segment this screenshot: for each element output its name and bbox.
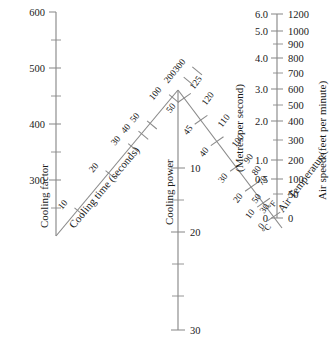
tick-major <box>211 137 224 146</box>
air-temp-c-tick-45: 45 <box>181 123 195 137</box>
air-speed-fpm-tick-800: 800 <box>288 53 304 64</box>
cooling-time-tick-100: 100 <box>147 85 164 102</box>
cooling-time-tick-30: 30 <box>109 134 123 148</box>
cooling-time-tick-50: 50 <box>128 111 142 125</box>
air-temp-c-tick-50: 50 <box>164 101 178 115</box>
air-speed-ms-tick-5: 5.0 <box>255 26 268 37</box>
axis-cooling-time: 10 20 30 40 50 100 200 300 Cooling time … <box>56 57 202 236</box>
cooling-time-tick-10: 10 <box>56 198 70 212</box>
cooling-factor-axis-label: Cooling factor <box>38 164 50 228</box>
air-speed-ms-tick-6: 6.0 <box>255 9 268 20</box>
air-temp-c-tick-10: 10 <box>243 207 257 221</box>
axis-cooling-power: 10 20 30 Cooling power <box>163 90 201 336</box>
air-speed-fpm-tick-600: 600 <box>288 84 304 95</box>
air-speed-fpm-tick-400: 400 <box>288 116 304 127</box>
air-speed-fpm-tick-700: 700 <box>288 68 304 79</box>
air-temp-f-tick-125: 125 <box>188 74 205 91</box>
air-speed-ms-tick-3: 3.0 <box>255 84 268 95</box>
air-speed-fpm-tick-200: 200 <box>288 155 304 166</box>
cooling-factor-tick-600: 600 <box>29 7 45 18</box>
air-temp-c-tick-40: 40 <box>197 145 211 159</box>
tick-major <box>192 67 202 75</box>
air-speed-ms-tick-4: 4.0 <box>255 53 268 64</box>
cooling-time-axis-label: Cooling time (seconds) <box>66 144 142 231</box>
air-temp-c-tick-30: 30 <box>216 171 230 185</box>
tick-major <box>178 93 191 102</box>
air-speed-fpm-tick-1200: 1200 <box>288 9 309 20</box>
tick-major <box>195 115 208 124</box>
air-speed-fpm-tick-100: 100 <box>288 174 304 185</box>
air-speed-ms-tick-2: 2.0 <box>255 116 268 127</box>
axis-cooling-factor: 600 500 400 300 Cooling factor <box>29 7 61 236</box>
air-speed-ms-tick-0: 0 <box>263 213 268 224</box>
air-speed-fpm-tick-500: 500 <box>288 100 304 111</box>
axis-air-speed: 6.0 5.0 4.0 3.0 2.0 1.0 0.5 0 1200 1000 … <box>233 9 329 224</box>
cooling-power-tick-10: 10 <box>190 163 201 174</box>
air-speed-fpm-tick-300: 300 <box>288 135 304 146</box>
air-speed-ms-tick-1: 1.0 <box>255 155 268 166</box>
air-speed-ms-tick-05: 0.5 <box>255 174 268 185</box>
air-speed-fpm-tick-1000: 1000 <box>288 26 309 37</box>
air-temp-f-tick-110: 110 <box>216 112 232 129</box>
air-speed-fpm-tick-50: 50 <box>288 189 299 200</box>
cooling-time-tick-40: 40 <box>119 122 133 136</box>
cooling-factor-tick-500: 500 <box>29 63 45 74</box>
air-temp-c-tick-20: 20 <box>231 191 245 205</box>
cooling-factor-tick-400: 400 <box>29 119 45 130</box>
air-speed-axis-label: Air speed (feet per minute) <box>316 81 329 200</box>
cooling-nomogram: 600 500 400 300 Cooling factor 10 20 30 … <box>0 0 333 347</box>
air-speed-fpm-tick-0: 0 <box>288 213 293 224</box>
cooling-power-tick-30: 30 <box>190 325 201 336</box>
air-speed-metres-label: (Metres per second) <box>233 84 246 172</box>
air-speed-fpm-tick-900: 900 <box>288 39 304 50</box>
cooling-power-axis-label: Cooling power <box>163 159 175 225</box>
cooling-power-tick-20: 20 <box>190 227 201 238</box>
cooling-time-tick-20: 20 <box>87 161 101 175</box>
air-temp-f-tick-120: 120 <box>200 90 217 107</box>
tick-major <box>268 212 281 221</box>
